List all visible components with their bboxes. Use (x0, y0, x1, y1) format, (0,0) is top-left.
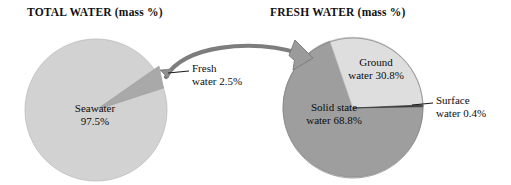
label-solid-state-water: Solid state water 68.8% (288, 101, 380, 127)
label-surface-water: Surface water 0.4% (436, 94, 486, 120)
label-seawater: Seawater 97.5% (52, 102, 138, 128)
pie-charts-graphics (0, 0, 511, 185)
label-surface-water-value: water 0.4% (436, 107, 486, 120)
label-fresh-water-name: Fresh (192, 62, 242, 75)
label-ground-water-name: Ground (330, 56, 422, 69)
label-seawater-name: Seawater (52, 102, 138, 115)
water-distribution-figure: TOTAL WATER (mass %) FRESH WATER (mass %… (0, 0, 511, 185)
label-fresh-water-value: water 2.5% (192, 75, 242, 88)
label-seawater-value: 97.5% (52, 115, 138, 128)
label-surface-water-name: Surface (436, 94, 486, 107)
label-ground-water: Ground water 30.8% (330, 56, 422, 82)
label-solid-state-water-value: water 68.8% (288, 114, 380, 127)
label-solid-state-water-name: Solid state (288, 101, 380, 114)
label-ground-water-value: water 30.8% (330, 69, 422, 82)
label-fresh-water: Fresh water 2.5% (192, 62, 242, 88)
